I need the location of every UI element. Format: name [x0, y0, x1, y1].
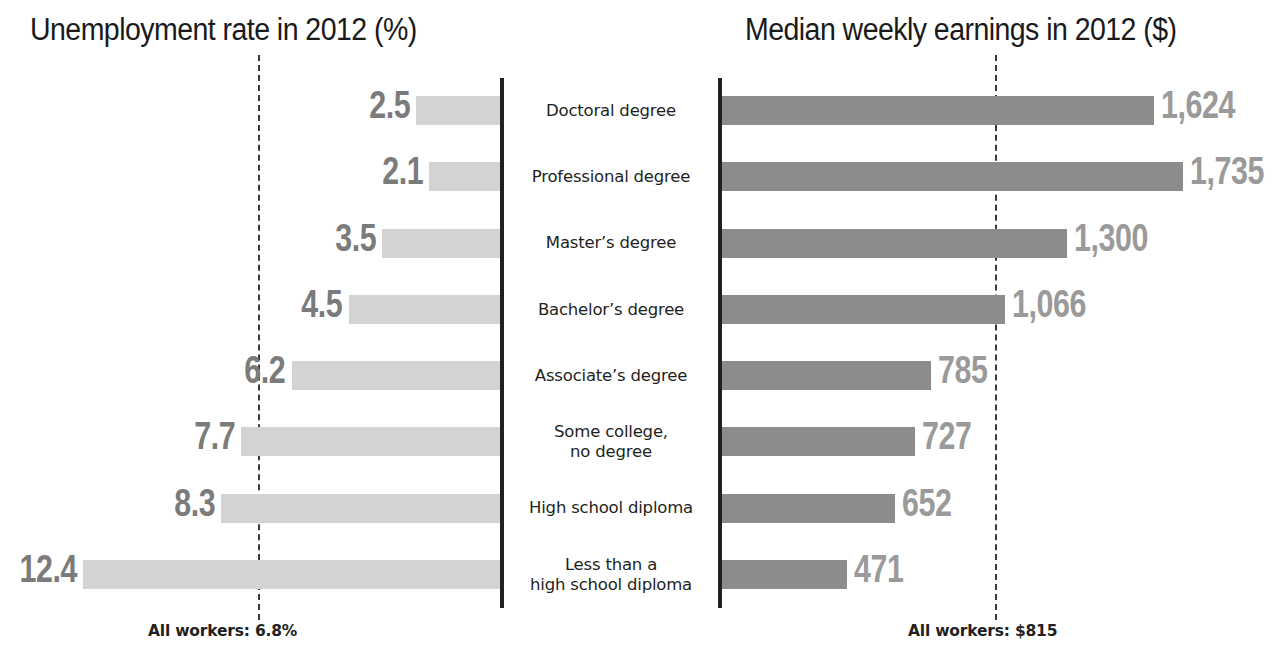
- unemployment-value-label: 8.3: [174, 482, 215, 525]
- category-label: High school diploma: [506, 476, 716, 542]
- category-label: Bachelor’s degree: [506, 277, 716, 343]
- category-label: Associate’s degree: [506, 343, 716, 409]
- table-row: 2.1Professional degree1,735: [0, 144, 1271, 210]
- unemployment-bar: [382, 229, 500, 258]
- earnings-value-label: 1,066: [1012, 283, 1086, 326]
- unemployment-bar: [221, 494, 500, 523]
- unemployment-value-label: 2.1: [382, 150, 423, 193]
- earnings-value-label: 652: [902, 482, 952, 525]
- unemployment-value-label: 3.5: [335, 217, 376, 260]
- earnings-bar: [722, 229, 1067, 258]
- earnings-bar: [722, 560, 847, 589]
- chart-canvas: Unemployment rate in 2012 (%) Median wee…: [0, 0, 1271, 657]
- category-label: Professional degree: [506, 144, 716, 210]
- unemployment-bar: [349, 295, 500, 324]
- unemployment-value-label: 12.4: [19, 548, 77, 591]
- earnings-bar: [722, 162, 1183, 191]
- category-label: Some college,no degree: [506, 409, 716, 475]
- earnings-bar: [722, 427, 915, 456]
- earnings-value-label: 1,735: [1190, 150, 1264, 193]
- category-label: Doctoral degree: [506, 78, 716, 144]
- table-row: 7.7Some college,no degree727: [0, 409, 1271, 475]
- table-row: 6.2Associate’s degree785: [0, 343, 1271, 409]
- table-row: 2.5Doctoral degree1,624: [0, 78, 1271, 144]
- left-chart-title: Unemployment rate in 2012 (%): [30, 12, 417, 48]
- unemployment-bar: [83, 560, 500, 589]
- earnings-value-label: 727: [922, 415, 972, 458]
- category-label: Master’s degree: [506, 211, 716, 277]
- earnings-bar: [722, 96, 1154, 125]
- earnings-value-label: 1,624: [1161, 84, 1235, 127]
- unemployment-value-label: 4.5: [302, 283, 343, 326]
- unemployment-bar: [429, 162, 500, 191]
- right-chart-title: Median weekly earnings in 2012 ($): [745, 12, 1176, 48]
- table-row: 3.5Master’s degree1,300: [0, 211, 1271, 277]
- right-footnote-all-workers: All workers: $815: [908, 622, 1057, 640]
- table-row: 4.5Bachelor’s degree1,066: [0, 277, 1271, 343]
- earnings-value-label: 471: [854, 548, 904, 591]
- unemployment-bar: [292, 361, 501, 390]
- left-footnote-all-workers: All workers: 6.8%: [148, 622, 297, 640]
- earnings-bar: [722, 494, 895, 523]
- unemployment-bar: [416, 96, 500, 125]
- table-row: 12.4Less than ahigh school diploma471: [0, 542, 1271, 608]
- earnings-bar: [722, 295, 1005, 324]
- earnings-value-label: 1,300: [1074, 217, 1148, 260]
- unemployment-value-label: 2.5: [369, 84, 410, 127]
- unemployment-bar: [241, 427, 500, 456]
- earnings-bar: [722, 361, 931, 390]
- table-row: 8.3High school diploma652: [0, 476, 1271, 542]
- earnings-value-label: 785: [938, 349, 988, 392]
- unemployment-value-label: 6.2: [244, 349, 285, 392]
- category-label: Less than ahigh school diploma: [506, 542, 716, 608]
- unemployment-value-label: 7.7: [194, 415, 235, 458]
